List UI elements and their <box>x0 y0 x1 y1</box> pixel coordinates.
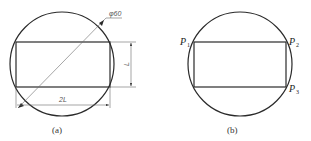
point-p3-label: P <box>288 83 295 94</box>
diameter-leader-line <box>18 18 106 108</box>
point-p2-label: P <box>288 36 295 47</box>
width-label: 2L <box>58 96 67 103</box>
diameter-arrow-top-icon <box>99 20 104 26</box>
diameter-label: φ60 <box>109 10 121 18</box>
diameter-arrow-bottom-icon <box>18 103 24 108</box>
rectangle-b <box>194 42 286 87</box>
circle-b <box>188 12 292 116</box>
figure-b: P 1 P 2 P 3 (b) <box>179 12 299 135</box>
diagram-canvas: φ60 L 2L (a) P 1 P 2 P 3 (b) <box>0 0 311 141</box>
point-p1-label: P <box>179 36 186 47</box>
point-p2-subscript: 2 <box>296 42 299 48</box>
caption-b: (b) <box>227 125 238 135</box>
point-p3-subscript: 3 <box>296 89 299 95</box>
point-p1-subscript: 1 <box>187 42 190 48</box>
height-label: L <box>123 62 130 66</box>
rectangle-a <box>16 42 110 87</box>
figure-a: φ60 L 2L (a) <box>10 10 136 135</box>
caption-a: (a) <box>52 125 62 135</box>
